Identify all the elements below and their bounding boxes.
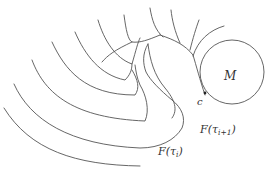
branch-upper-1 bbox=[124, 15, 160, 42]
label-f-tau-i1-close: ) bbox=[230, 123, 235, 136]
diagram-figure: M c F(τi) F(τi+1) bbox=[0, 0, 276, 170]
label-f-tau-i-main: F(τ bbox=[157, 145, 177, 158]
branch-top-2 bbox=[171, 10, 180, 43]
label-f-tau-i1-main: F(τ bbox=[199, 123, 219, 136]
level-curve-tau-i bbox=[32, 60, 147, 121]
label-f-tau-i1: F(τi+1) bbox=[199, 123, 236, 137]
branch-upper-2 bbox=[102, 42, 132, 62]
branch-top-3 bbox=[150, 8, 163, 37]
label-f-tau-i1-sub: i+1 bbox=[218, 128, 231, 137]
diagram-canvas: M c F(τi) F(τi+1) bbox=[0, 0, 276, 170]
level-curve-tau-i1 bbox=[14, 44, 184, 148]
level-arc-2 bbox=[75, 32, 132, 80]
branch-to-circle bbox=[193, 26, 224, 56]
label-c: c bbox=[197, 96, 203, 107]
label-f-tau-i-close: ) bbox=[177, 145, 182, 158]
label-f-tau-i: F(τi) bbox=[157, 145, 183, 159]
level-arc-3 bbox=[52, 42, 138, 95]
level-curve-outer bbox=[4, 108, 140, 166]
contact-point-dot bbox=[204, 92, 207, 95]
label-m: M bbox=[223, 69, 237, 83]
